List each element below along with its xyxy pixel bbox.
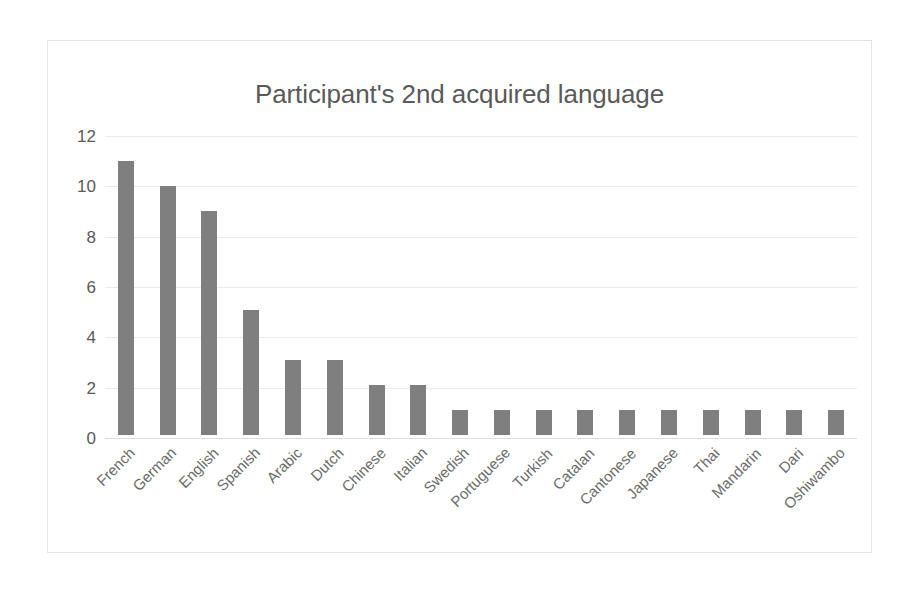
x-tick-label: Thai (690, 444, 723, 477)
y-tick-label: 2 (48, 379, 96, 396)
x-tick-label: Dutch (307, 444, 347, 484)
gridline (105, 438, 857, 439)
bar[interactable] (410, 385, 426, 435)
y-tick-label: 10 (48, 178, 96, 195)
x-tick-label: Dari (775, 444, 806, 475)
bar[interactable] (661, 410, 677, 435)
y-tick-label: 8 (48, 228, 96, 245)
y-tick-label: 0 (48, 430, 96, 447)
bar[interactable] (118, 161, 134, 435)
y-tick-label: 6 (48, 279, 96, 296)
bar[interactable] (703, 410, 719, 435)
bar[interactable] (243, 310, 259, 435)
bar[interactable] (577, 410, 593, 435)
y-tick-label: 4 (48, 329, 96, 346)
x-tick-label: German (129, 444, 179, 494)
x-tick-label: Turkish (509, 444, 555, 490)
bar[interactable] (285, 360, 301, 435)
bar[interactable] (160, 186, 176, 435)
bar[interactable] (828, 410, 844, 435)
bar[interactable] (786, 410, 802, 435)
bar[interactable] (494, 410, 510, 435)
chart-frame: Participant's 2nd acquired language 0246… (47, 40, 872, 553)
x-axis: FrenchGermanEnglishSpanishArabicDutchChi… (105, 440, 857, 550)
bar[interactable] (327, 360, 343, 435)
y-axis: 024681012 (48, 136, 96, 438)
bar[interactable] (745, 410, 761, 435)
y-tick-label: 12 (48, 128, 96, 145)
bar-series (105, 136, 857, 435)
chart-title: Participant's 2nd acquired language (48, 79, 871, 110)
bar[interactable] (369, 385, 385, 435)
bar[interactable] (452, 410, 468, 435)
bar[interactable] (201, 211, 217, 435)
bar[interactable] (619, 410, 635, 435)
bar[interactable] (536, 410, 552, 435)
x-tick-label: Spanish (213, 444, 263, 494)
x-tick-label: Arabic (263, 444, 305, 486)
x-tick-label: Chinese (338, 444, 389, 495)
